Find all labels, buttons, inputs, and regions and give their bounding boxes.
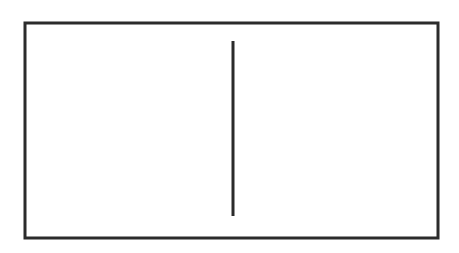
drawing-canvas <box>0 0 459 253</box>
divided-rectangle-figure <box>0 0 459 253</box>
